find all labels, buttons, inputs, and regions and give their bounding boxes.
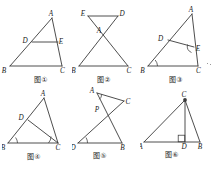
figure-3-angle-marks (155, 45, 191, 67)
angle-arc-D (86, 138, 88, 144)
segment-D-C (78, 101, 124, 143)
vertex-label-D: D (157, 35, 164, 43)
vertex-label-B: B (140, 67, 145, 75)
figure-1-caption: 图① (24, 74, 58, 84)
vertex-label-C: C (127, 67, 132, 75)
segment-C-A (44, 98, 58, 143)
vertex-label-C: C (56, 144, 61, 152)
figure-1-segments (10, 18, 62, 66)
figure-2-drawing: E D A B C (72, 4, 142, 80)
vertex-label-E: E (80, 10, 86, 18)
figure-4: A B C D 图④ (2, 88, 72, 158)
figure-3-caption: 图③ (158, 74, 194, 84)
vertex-label-B: B (72, 67, 76, 75)
figure-4-caption: 图④ (16, 151, 52, 161)
vertex-label-A: A (96, 27, 102, 35)
vertex-label-C: C (60, 67, 65, 75)
figure-3: A B C D E 图③ (140, 4, 212, 80)
vertex-label-P: P (94, 106, 100, 114)
vertex-label-B: B (2, 67, 7, 75)
vertex-label-A: A (48, 10, 54, 18)
vertex-label-A: A (89, 87, 95, 95)
figure-6-angle-marks (178, 135, 185, 142)
vertex-label-C: C (126, 98, 131, 106)
scan-speck (210, 64, 211, 65)
segment-A-B (148, 14, 192, 66)
figure-3-drawing: A B C D E (140, 4, 212, 80)
figure-2-caption: 图② (86, 74, 122, 84)
figure-1: A B C D E 图① (0, 4, 78, 80)
figure-6-caption: 图⑥ (154, 149, 190, 159)
vertex-label-A: A (140, 143, 143, 151)
figure-2-segments (79, 16, 128, 66)
vertex-label-D: D (21, 37, 28, 45)
figure-4-angle-marks (16, 137, 51, 144)
figure-4-drawing: A B C D (2, 88, 72, 158)
figure-1-drawing: A B C D E (0, 4, 78, 80)
scan-speck (207, 63, 208, 64)
vertex-label-D: D (118, 10, 125, 18)
vertex-label-A: A (188, 6, 194, 14)
figure-4-segments (8, 98, 58, 143)
figure-5-angle-marks (86, 94, 102, 143)
vertex-label-E: E (58, 38, 64, 46)
vertex-label-B: B (198, 143, 203, 151)
segment-A-B (8, 98, 44, 143)
figure-5: A C P D B 图⑤ (72, 85, 138, 157)
segment-A-B (97, 93, 122, 143)
vertex-label-C: C (182, 91, 187, 99)
figure-5-caption: 图⑤ (82, 150, 118, 160)
angle-arc-B (155, 60, 157, 66)
angle-arc-C (49, 137, 52, 144)
vertex-label-B: B (2, 144, 6, 152)
segment-C-B (185, 100, 200, 142)
figure-6-drawing: C A D B (140, 90, 212, 156)
vertex-label-D: D (72, 144, 76, 152)
figure-3-segments (148, 14, 198, 66)
segment-D-C (28, 120, 58, 143)
vertex-label-C: C (196, 67, 201, 75)
figure-5-drawing: A C P D B (72, 85, 138, 157)
figure-6-segments (144, 100, 200, 142)
segment-E-C (88, 16, 128, 66)
figure-6: C A D B 图⑥ (140, 90, 212, 156)
figure-5-segments (78, 93, 124, 143)
angle-arc-B (16, 138, 18, 144)
figure-2: E D A B C 图② (72, 4, 142, 80)
vertex-label-D: D (17, 114, 24, 122)
vertex-label-E: E (195, 45, 201, 53)
segment-A-C (144, 100, 185, 142)
segment-D-B (79, 16, 118, 66)
vertex-label-A: A (40, 90, 46, 98)
figure-sheet: A B C D E 图① E D A B C 图② (0, 0, 218, 170)
segment-C-A (192, 14, 198, 66)
right-angle-mark-D (178, 135, 185, 142)
segment-D-E (168, 40, 194, 47)
vertex-label-B: B (120, 144, 125, 152)
